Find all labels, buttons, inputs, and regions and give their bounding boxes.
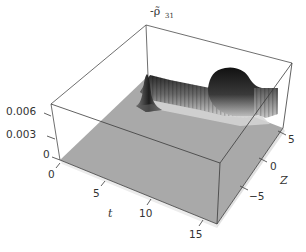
z-depth-axis-title: Z: [279, 174, 288, 187]
svg-text:-ρ̃: -ρ̃: [150, 5, 160, 18]
svg-text:31: 31: [165, 12, 174, 20]
z-tick-label: 0: [43, 148, 50, 160]
t-tick-label: 10: [139, 207, 152, 219]
z-depth-tick-label: 5: [288, 133, 295, 145]
z-depth-tick-label: −5: [249, 190, 264, 202]
z-depth-tick-label: 0: [270, 160, 277, 172]
surface-plot-3d: -ρ̃ 31 0.006 0.003 0 0 5 10 15 t 5 0 −5 …: [0, 0, 306, 252]
t-tick-label: 0: [48, 168, 55, 180]
plot-title: -ρ̃ 31: [150, 5, 174, 20]
t-tick-label: 15: [189, 228, 202, 240]
t-tick-label: 5: [93, 187, 100, 199]
t-axis-title: t: [108, 207, 113, 220]
z-tick-label: 0.003: [6, 128, 36, 140]
z-tick-label: 0.006: [6, 105, 36, 117]
